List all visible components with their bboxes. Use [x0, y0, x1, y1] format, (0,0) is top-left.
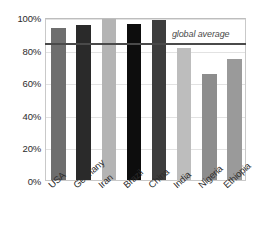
bar-brazil [127, 24, 142, 180]
y-axis-tick-label: 0% [28, 176, 41, 187]
y-axis-tick-label: 60% [23, 78, 41, 89]
bar-germany [76, 25, 91, 180]
y-axis-tick-label: 20% [23, 143, 41, 154]
y-axis-tick-label: 100% [18, 13, 42, 24]
bar-chart: 100%80%60%40%20%0% global average USAGer… [0, 0, 256, 238]
bar-ethiopia [227, 59, 242, 180]
y-axis-tick-label: 80% [23, 45, 41, 56]
x-axis: USAGermanyIranBrazilChinaIndiaNigeriaEth… [45, 182, 246, 238]
y-axis: 100%80%60%40%20%0% [0, 0, 44, 238]
bar-usa [51, 28, 66, 180]
plot-area [45, 18, 246, 181]
global-average-line [45, 43, 246, 45]
bar-india [177, 48, 192, 180]
global-average-label: global average [172, 29, 230, 39]
y-axis-tick-label: 40% [23, 110, 41, 121]
